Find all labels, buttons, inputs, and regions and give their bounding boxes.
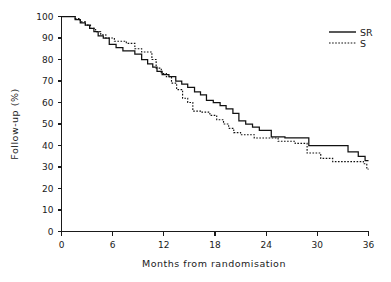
y-tick-label: 30: [42, 162, 54, 172]
y-tick-label: 70: [42, 76, 54, 86]
y-axis-ticks: 0102030405060708090100: [36, 12, 61, 237]
legend-label-sr: SR: [360, 27, 373, 38]
x-tick-label: 0: [59, 240, 65, 250]
x-tick-label: 6: [110, 240, 116, 250]
y-tick-label: 0: [48, 227, 54, 237]
x-axis-ticks: 061218243036: [59, 232, 375, 250]
x-axis-title: Months from randomisation: [142, 258, 286, 269]
y-tick-label: 90: [42, 33, 54, 43]
x-tick-label: 36: [363, 240, 375, 250]
survival-chart-svg: 0102030405060708090100 061218243036 SR S…: [0, 0, 391, 282]
y-tick-label: 10: [42, 205, 54, 215]
series-line-sr: [62, 17, 369, 161]
y-axis-title: Follow-up (%): [9, 88, 20, 159]
legend-label-s: S: [360, 38, 366, 49]
x-tick-label: 12: [158, 240, 169, 250]
y-tick-label: 40: [42, 141, 54, 151]
x-tick-label: 24: [260, 240, 272, 250]
series-line-s: [62, 17, 369, 170]
y-tick-label: 100: [36, 12, 53, 22]
x-tick-label: 18: [209, 240, 221, 250]
y-tick-label: 60: [42, 98, 54, 108]
x-tick-label: 30: [312, 240, 324, 250]
legend: SR S: [329, 27, 373, 49]
y-tick-label: 50: [42, 119, 54, 129]
y-tick-label: 20: [42, 184, 54, 194]
chart-container: 0102030405060708090100 061218243036 SR S…: [0, 0, 391, 282]
y-tick-label: 80: [42, 55, 54, 65]
